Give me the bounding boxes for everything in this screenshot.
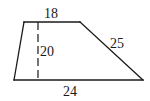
slant-side-label: 25: [110, 36, 124, 51]
top-base-label: 18: [44, 6, 58, 21]
height-label: 20: [40, 44, 54, 59]
slant-side-edge: [80, 22, 143, 80]
trapezoid-diagram: 18 20 25 24: [0, 0, 150, 101]
left-side-edge: [14, 22, 24, 80]
bottom-base-label: 24: [63, 84, 77, 99]
